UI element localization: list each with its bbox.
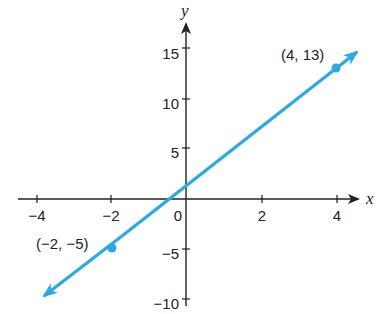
- point-label: (−2, −5): [36, 235, 89, 252]
- line-series: [122, 52, 357, 236]
- x-tick-label: −4: [28, 207, 45, 224]
- y-axis-label: y: [179, 1, 189, 20]
- point-neg2-neg5: [108, 244, 117, 253]
- y-tick-label: −10: [154, 295, 179, 312]
- point-4-13: [332, 64, 341, 73]
- y-tick-label: 10: [162, 95, 179, 112]
- x-tick-label: −2: [102, 207, 119, 224]
- point-label: (4, 13): [281, 46, 324, 63]
- y-tick-label: −5: [162, 245, 179, 262]
- y-tick-label: 15: [162, 45, 179, 62]
- y-tick-label: 5: [171, 144, 179, 161]
- x-axis-label: x: [365, 189, 374, 208]
- x-tick-label: 4: [333, 207, 341, 224]
- origin-label: 0: [174, 207, 182, 224]
- x-tick-label: 2: [258, 207, 266, 224]
- coordinate-plane: −4 −2 0 2 4 15 10 5 −5 −10 x y (−2, −5) …: [0, 0, 392, 314]
